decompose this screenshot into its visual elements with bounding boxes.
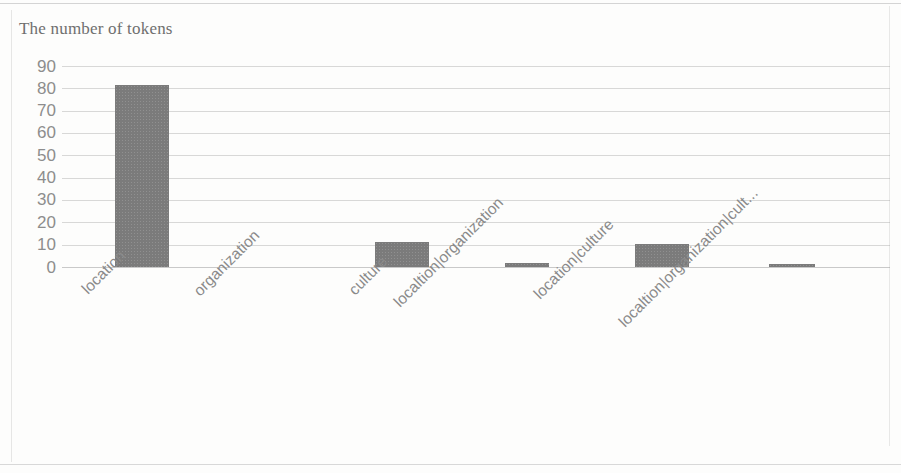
gridline-70 bbox=[62, 111, 890, 112]
gridline-60 bbox=[62, 133, 890, 134]
gridline-50 bbox=[62, 155, 890, 156]
gridline-20 bbox=[62, 222, 890, 223]
scan-artifact-bottom-line bbox=[0, 464, 901, 465]
y-axis: 90 80 70 60 50 40 30 20 10 0 bbox=[12, 66, 56, 268]
plot-area bbox=[62, 66, 890, 268]
gridline-40 bbox=[62, 178, 890, 179]
y-tick-label: 20 bbox=[16, 214, 56, 231]
y-tick-label: 80 bbox=[16, 80, 56, 97]
y-tick-label: 40 bbox=[16, 169, 56, 186]
gridline-90 bbox=[62, 66, 890, 67]
y-tick-label: 90 bbox=[16, 58, 56, 75]
y-tick-label: 50 bbox=[16, 147, 56, 164]
bar-culture[interactable] bbox=[375, 242, 429, 267]
bar-localtion-organization-culture[interactable] bbox=[769, 264, 815, 267]
chart-screenshot: The number of tokens 90 80 70 60 50 40 3… bbox=[0, 0, 901, 473]
gridline-0-baseline bbox=[62, 267, 890, 268]
y-tick-label: 70 bbox=[16, 102, 56, 119]
bar-location-culture[interactable] bbox=[635, 244, 689, 267]
y-tick-label: 10 bbox=[16, 236, 56, 253]
gridline-10 bbox=[62, 245, 890, 246]
gridline-80 bbox=[62, 88, 890, 89]
y-tick-label: 30 bbox=[16, 191, 56, 208]
bar-localtion-organization[interactable] bbox=[505, 263, 549, 267]
scan-artifact-top-line bbox=[0, 3, 901, 4]
chart-title: The number of tokens bbox=[19, 19, 173, 39]
y-tick-label: 0 bbox=[16, 259, 56, 276]
bar-location[interactable] bbox=[115, 85, 169, 267]
y-tick-label: 60 bbox=[16, 124, 56, 141]
gridline-30 bbox=[62, 200, 890, 201]
